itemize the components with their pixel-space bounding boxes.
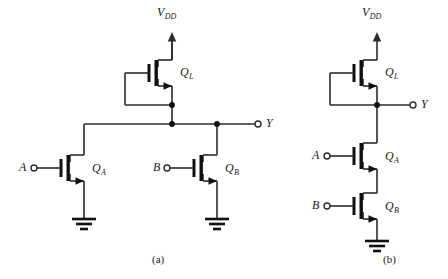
terminal-output-y-circuit-a[interactable] — [255, 121, 261, 127]
figure-nmos-nor-nand-schematic: VDD QL Y A QA B QB (a) VDD QL Y A QA B Q… — [0, 0, 448, 279]
label-vdd-a: VDD — [157, 6, 176, 18]
label-input-b-circuit-a: B — [153, 161, 160, 173]
ground-symbol-b — [365, 241, 389, 251]
terminal-input-b-circuit-b[interactable] — [324, 203, 330, 209]
supply-rail-a — [168, 32, 176, 60]
ground-symbol-qb-a — [205, 219, 229, 229]
transistor-qa-b — [330, 143, 377, 173]
ground-symbol-qa-a — [72, 219, 96, 229]
label-qb-b: QB — [385, 200, 399, 212]
caption-b: (b) — [383, 253, 396, 265]
label-qa-b: QA — [385, 150, 399, 162]
transistor-qa-a — [37, 155, 84, 185]
label-y-b: Y — [421, 98, 428, 110]
junction-dot-output-qb-a — [214, 121, 220, 127]
label-vdd-b: VDD — [362, 6, 381, 18]
junction-dot-output-b — [374, 102, 380, 108]
terminal-input-b-circuit-a[interactable] — [164, 165, 170, 171]
label-qa-a: QA — [92, 162, 106, 174]
label-ql-a: QL — [180, 66, 193, 78]
terminal-output-y-circuit-b[interactable] — [410, 102, 416, 108]
label-input-a-circuit-b: A — [312, 149, 319, 161]
label-qb-a: QB — [225, 162, 239, 174]
terminal-input-a-circuit-a[interactable] — [31, 165, 37, 171]
label-y-a: Y — [266, 117, 273, 129]
junction-dot-ql-source-a — [169, 102, 175, 108]
transistor-ql-b — [330, 60, 377, 90]
label-ql-b: QL — [385, 66, 398, 78]
supply-rail-b — [373, 32, 381, 60]
transistor-ql-a — [125, 60, 172, 90]
label-input-a-circuit-a: A — [19, 161, 26, 173]
transistor-qb-a — [170, 155, 217, 185]
caption-a: (a) — [152, 253, 164, 265]
junction-dot-output-center-a — [169, 121, 175, 127]
label-input-b-circuit-b: B — [312, 199, 319, 211]
schematic-canvas — [0, 0, 448, 279]
terminal-input-a-circuit-b[interactable] — [324, 153, 330, 159]
transistor-qb-b — [330, 193, 377, 223]
